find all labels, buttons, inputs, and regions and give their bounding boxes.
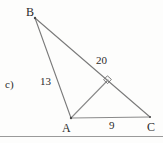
vertex-label-a: A	[62, 122, 71, 134]
vertex-dot-c	[149, 116, 151, 118]
vertex-label-b: B	[26, 6, 34, 18]
side-length-bc: 20	[96, 55, 107, 66]
geometry-figure: c) B A C 13 20 9	[0, 0, 163, 143]
segment-altitude-ad	[71, 80, 108, 118]
part-label: c)	[5, 79, 14, 90]
segment-ac	[71, 117, 150, 118]
vertex-dot-b	[34, 17, 36, 19]
vertex-label-c: C	[147, 121, 155, 133]
vertex-dot-a	[70, 117, 72, 119]
triangle-diagram-svg	[0, 0, 163, 143]
side-length-ab: 13	[40, 76, 51, 87]
side-length-ac: 9	[109, 120, 115, 131]
